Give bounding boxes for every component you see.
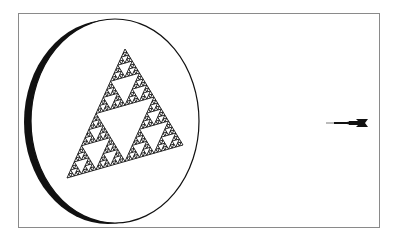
dart-icon xyxy=(326,119,368,127)
disc-face xyxy=(31,19,199,223)
disc xyxy=(24,19,199,224)
diagram-canvas xyxy=(0,0,394,241)
